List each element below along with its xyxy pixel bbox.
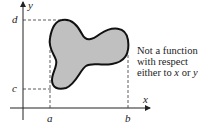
caption-line-2: with respect xyxy=(137,56,188,67)
caption-line-3: either to x or y xyxy=(137,67,198,78)
caption-prefix: either to xyxy=(137,67,174,78)
label-b: b xyxy=(125,112,131,124)
diagram: y x d c a b Not a function with respect … xyxy=(0,0,209,131)
label-c: c xyxy=(12,82,17,94)
region-shape xyxy=(50,20,129,89)
label-d: d xyxy=(12,13,18,25)
caption-mid: or xyxy=(179,67,193,78)
x-axis-label: x xyxy=(142,93,148,105)
y-axis-label: y xyxy=(27,0,33,11)
caption-y: y xyxy=(192,67,198,78)
caption-line-1: Not a function xyxy=(137,45,198,56)
label-a: a xyxy=(47,112,53,124)
